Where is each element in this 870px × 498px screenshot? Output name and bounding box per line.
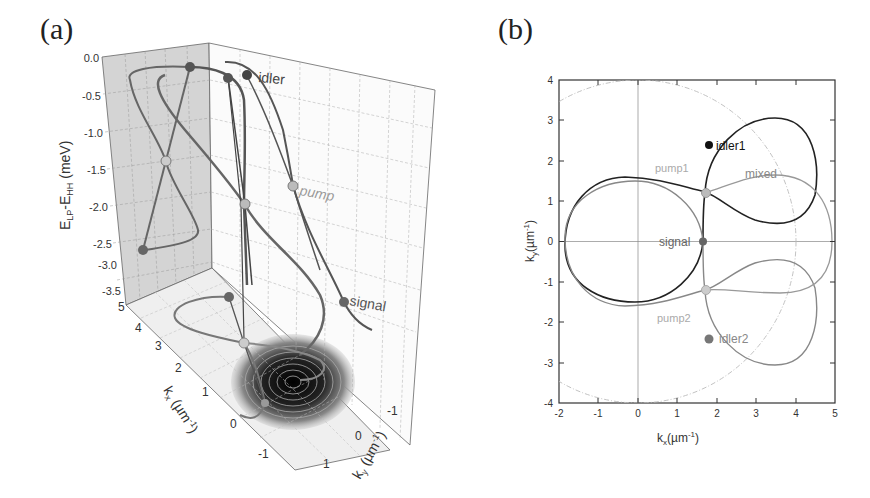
y-tick-label: 1 xyxy=(547,196,553,207)
y-tick-label: -1 xyxy=(544,277,553,288)
marker-pump-center xyxy=(240,199,250,209)
point-pump2 xyxy=(702,286,711,295)
y-tick-labels: 4 3 2 1 0 -1 -2 -3 -4 xyxy=(544,75,553,409)
y-tick-label: -3 xyxy=(544,358,553,369)
label-pump2: pump2 xyxy=(657,312,691,324)
label-idler2: idler2 xyxy=(719,332,749,346)
x-tick-label: 3 xyxy=(753,408,759,419)
dispersion-contour xyxy=(231,334,355,430)
x-tick-label: 4 xyxy=(793,408,799,419)
z-axis-label: ELP-EHH (meV) xyxy=(57,141,75,230)
kx-axis-label: kx (µm-1) xyxy=(159,383,202,437)
point-pump1 xyxy=(702,189,711,198)
marker-pump xyxy=(288,181,298,191)
marker-idler-top-2 xyxy=(223,73,233,83)
kx-tick-label: 5 xyxy=(118,300,125,314)
kx-tick-label: 0 xyxy=(230,417,237,431)
z-tick-label: -0.5 xyxy=(82,90,101,102)
x-tick-label: -1 xyxy=(594,408,603,419)
label-mixed: mixed xyxy=(745,167,777,181)
x-tick-label: 0 xyxy=(635,408,641,419)
point-idler2 xyxy=(705,335,714,344)
point-signal xyxy=(699,238,707,246)
z-tick-label: -1.0 xyxy=(84,127,103,139)
y-tick-label: 0 xyxy=(547,236,553,247)
marker-idler xyxy=(242,70,252,80)
x-tick-label: -2 xyxy=(555,408,564,419)
ky-tick-label: 1 xyxy=(323,457,330,471)
kx-tick-label: 2 xyxy=(175,361,182,375)
marker-left-wall-bottom xyxy=(138,245,148,255)
marker-floor-upper xyxy=(224,292,234,302)
z-tick-label: -3.0 xyxy=(98,259,117,271)
kx-tick-label: -1 xyxy=(258,447,269,461)
marker-left-wall-center xyxy=(161,156,171,166)
y-tick-label: 2 xyxy=(547,156,553,167)
z-tick-label: -2.5 xyxy=(93,238,112,250)
z-tick-label: -1.5 xyxy=(87,164,106,176)
x-tick-label: 1 xyxy=(674,408,680,419)
point-idler1 xyxy=(705,141,713,149)
label-idler1: idler1 xyxy=(716,139,746,153)
y-tick-label: -2 xyxy=(544,317,553,328)
kx-tick-label: 3 xyxy=(155,339,162,353)
y-axis-label: ky(µm-1) xyxy=(522,220,539,262)
marker-signal xyxy=(339,297,349,307)
y-tick-label: 4 xyxy=(547,75,553,86)
label-idler: idler xyxy=(258,69,286,87)
x-tick-label: 5 xyxy=(832,408,838,419)
marker-floor-lower xyxy=(261,399,269,407)
x-tick-label: 2 xyxy=(714,408,720,419)
panel-a-3d-plot: 0.0 -0.5 -1.0 -1.5 -2.0 -2.5 -3.0 -3.5 E… xyxy=(57,43,435,483)
x-tick-labels: -2 -1 0 1 2 3 4 5 xyxy=(555,408,839,419)
ky-tick-label: -1 xyxy=(387,404,398,418)
ky-tick-label: 0 xyxy=(355,429,362,443)
kx-tick-label: 4 xyxy=(135,321,142,335)
label-pump1: pump1 xyxy=(655,162,689,174)
marker-idler-top-1 xyxy=(185,62,195,72)
y-tick-label: 3 xyxy=(547,115,553,126)
z-tick-label: 0.0 xyxy=(84,52,99,64)
y-tick-label: -4 xyxy=(544,398,553,409)
label-signal: signal xyxy=(659,235,690,249)
kx-tick-label: 1 xyxy=(202,385,209,399)
z-tick-label: -2.0 xyxy=(89,201,108,213)
panel-b-2d-plot: 4 3 2 1 0 -1 -2 -3 -4 -2 -1 0 1 2 3 4 5 … xyxy=(480,75,838,447)
marker-floor-center xyxy=(239,338,249,348)
x-axis-label: kx(µm-1) xyxy=(657,430,699,447)
z-tick-label: -3.5 xyxy=(102,285,121,297)
